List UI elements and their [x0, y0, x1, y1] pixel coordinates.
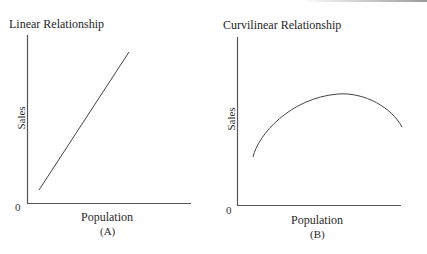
panel-a-linear-line [39, 52, 129, 190]
panel-b-curvilinear-line [253, 94, 402, 157]
charts-canvas [0, 0, 427, 254]
